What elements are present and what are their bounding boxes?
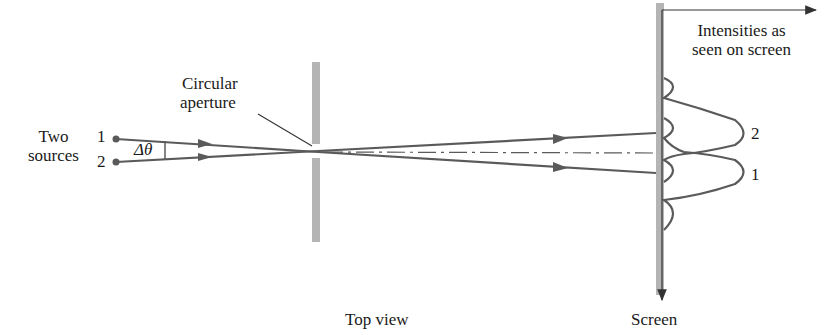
- aperture-barrier-top: [312, 62, 320, 144]
- intensities-label: Intensities as seen on screen: [692, 21, 791, 59]
- peak-1-label: 1: [751, 165, 760, 184]
- two-sources-line2: sources: [28, 146, 79, 165]
- top-view-label: Top view: [345, 310, 409, 329]
- intensities-line2: seen on screen: [692, 40, 791, 59]
- intensity-curve-2-side: [664, 62, 666, 78]
- screen-label: Screen: [631, 310, 677, 329]
- intensity-curve-2: [664, 78, 744, 182]
- ray-2-outgoing: [318, 133, 656, 151]
- ray-1-arrow-icon: [198, 139, 212, 148]
- source-2-label: 2: [97, 152, 106, 171]
- ray-2-outgoing-arrow-icon: [553, 134, 568, 144]
- aperture-pointer: [258, 114, 312, 146]
- ray-2-arrow-icon: [198, 153, 212, 161]
- two-sources-line1: Two: [28, 127, 79, 146]
- aperture-label: Circular aperture: [180, 74, 238, 112]
- screen-bar: [656, 3, 664, 295]
- ray-1-outgoing: [318, 152, 656, 173]
- delta-theta-label: Δθ: [134, 140, 152, 159]
- aperture-line1: Circular: [180, 74, 238, 93]
- source-1-label: 1: [97, 127, 106, 146]
- two-sources-label: Two sources: [28, 127, 79, 165]
- intensity-curve-1: [664, 118, 744, 230]
- aperture-line2: aperture: [180, 93, 238, 112]
- aperture-barrier-bottom: [312, 158, 320, 242]
- optical-axis: [325, 152, 656, 153]
- intensities-line1: Intensities as: [692, 21, 791, 40]
- peak-2-label: 2: [751, 124, 760, 143]
